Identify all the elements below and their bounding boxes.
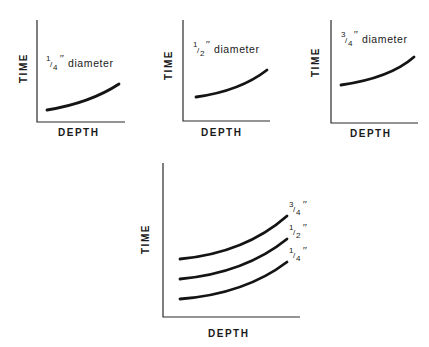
y-axis-label: TIME: [163, 50, 174, 80]
axes: [183, 20, 270, 121]
inch-mark: ″: [205, 38, 210, 50]
y-axis-label: TIME: [310, 47, 321, 77]
panel-half-inch: 1 / 2 ″ diameter DEPTH TIME: [163, 20, 270, 138]
label-quarter: 1 / 4 ″: [289, 244, 307, 263]
label-denominator: 4: [296, 208, 301, 217]
inch-mark: ″: [59, 52, 64, 64]
fraction-denominator: 2: [200, 49, 205, 58]
label-denominator: 4: [296, 254, 301, 263]
time-depth-curve: [341, 57, 414, 85]
axes: [163, 163, 300, 317]
x-axis-label: DEPTH: [208, 328, 249, 339]
panel-title: diameter: [362, 33, 408, 45]
time-depth-curve: [47, 84, 119, 110]
panel-title: diameter: [214, 43, 260, 55]
y-axis-label: TIME: [18, 53, 29, 83]
x-axis-label: DEPTH: [58, 127, 99, 138]
panel-quarter-inch: 1 / 4 ″ diameter DEPTH TIME: [18, 20, 125, 138]
inch-mark: ″: [302, 198, 307, 210]
label-denominator: 2: [296, 231, 301, 240]
panel-title: diameter: [68, 57, 114, 69]
curve-three-quarter: [180, 216, 287, 259]
inch-mark: ″: [302, 221, 307, 233]
label-half: 1 / 2 ″: [289, 221, 307, 240]
fraction-denominator: 4: [53, 63, 58, 72]
inch-mark: ″: [302, 244, 307, 256]
fraction-denominator: 4: [348, 39, 353, 48]
x-axis-label: DEPTH: [201, 127, 242, 138]
inch-mark: ″: [353, 28, 358, 40]
time-depth-curve: [196, 70, 267, 97]
panel-three-quarter-inch: 3 / 4 ″ diameter DEPTH TIME: [310, 20, 418, 139]
panel-combined: 3 / 4 ″ 1 / 2 ″ 1 / 4 ″ DEPTH TIME: [140, 163, 307, 339]
drill-time-depth-diagram: 1 / 4 ″ diameter DEPTH TIME 1 / 2 ″ diam…: [0, 0, 429, 347]
axes: [37, 20, 125, 122]
label-three-quarter: 3 / 4 ″: [289, 198, 307, 217]
x-axis-label: DEPTH: [350, 128, 391, 139]
y-axis-label: TIME: [140, 224, 151, 254]
